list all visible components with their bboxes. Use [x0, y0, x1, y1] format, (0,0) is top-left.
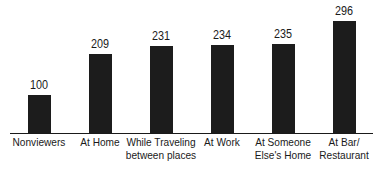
data-label: 209 [82, 37, 118, 51]
category-label-line: At Work [187, 136, 257, 149]
bar [28, 95, 51, 133]
category-label-line: Else's Home [248, 149, 318, 162]
bar [211, 45, 234, 133]
data-label: 296 [326, 4, 362, 18]
category-label-line: At Someone [248, 136, 318, 149]
category-label: At Bar/Restaurant [309, 136, 379, 162]
category-label-line: At Home [65, 136, 135, 149]
data-label: 231 [143, 29, 179, 43]
bar [272, 44, 295, 133]
data-label: 234 [204, 28, 240, 42]
x-axis-baseline [10, 133, 373, 134]
category-label: At SomeoneElse's Home [248, 136, 318, 162]
bar [89, 54, 112, 133]
bar-chart: 100Nonviewers209At Home231While Travelin… [0, 0, 384, 174]
category-label: At Home [65, 136, 135, 149]
category-label: While Travelingbetween places [126, 136, 196, 162]
category-label-line: Nonviewers [4, 136, 74, 149]
data-label: 235 [265, 27, 301, 41]
category-label-line: While Traveling [126, 136, 196, 149]
data-label: 100 [21, 78, 57, 92]
bar [150, 46, 173, 133]
category-label: Nonviewers [4, 136, 74, 149]
bar [333, 21, 356, 133]
category-label-line: At Bar/ [309, 136, 379, 149]
category-label-line: Restaurant [309, 149, 379, 162]
category-label: At Work [187, 136, 257, 149]
category-label-line: between places [126, 149, 196, 162]
